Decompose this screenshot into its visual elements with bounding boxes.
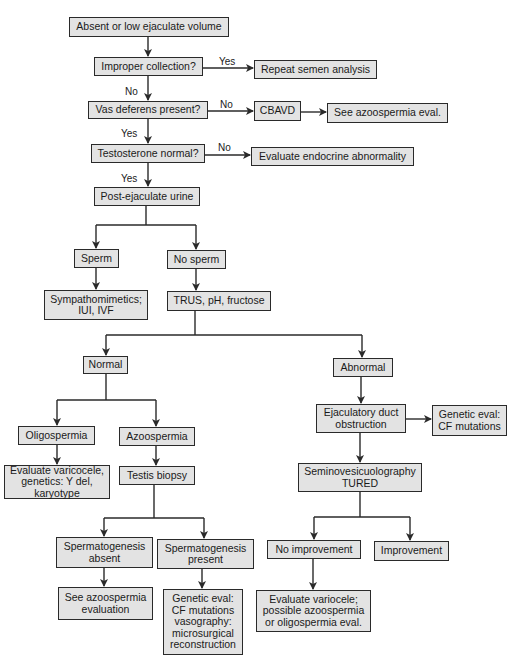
node-genetic-eval-vasography: Genetic eval: CF mutations vasography: m… <box>163 589 243 655</box>
edge-label-improper-yes: Yes <box>219 57 235 67</box>
node-oligospermia: Oligospermia <box>18 426 95 445</box>
node-improvement: Improvement <box>374 541 449 561</box>
node-sperm: Sperm <box>74 249 119 268</box>
node-repeat-semen-analysis: Repeat semen analysis <box>254 60 377 79</box>
node-spermatogenesis-present: Spermatogenesis present <box>157 539 254 569</box>
node-testosterone-normal: Testosterone normal? <box>91 144 205 163</box>
node-evaluate-varicocele: Evaluate varicocele, genetics: Y del, ka… <box>4 465 110 499</box>
node-cbavd: CBAVD <box>254 101 301 121</box>
edge-label-testosterone-yes: Yes <box>121 174 137 184</box>
node-vas-deferens: Vas deferens present? <box>88 101 208 119</box>
edge-label-vas-yes: Yes <box>121 129 137 139</box>
node-ejaculatory-duct-obstruction: Ejaculatory duct obstruction <box>316 404 406 433</box>
node-sympathomimetics: Sympathomimetics; IUI, IVF <box>44 290 148 320</box>
node-seminovesiculography: Seminovesicuolography TURED <box>298 463 422 492</box>
node-evaluate-endocrine: Evaluate endocrine abnormality <box>251 147 414 166</box>
node-absent-low-volume: Absent or low ejaculate volume <box>69 17 229 37</box>
node-trus: TRUS, pH, fructose <box>167 291 271 311</box>
node-spermatogenesis-absent: Spermatogenesis absent <box>56 537 153 568</box>
node-post-ejaculate-urine: Post-ejaculate urine <box>94 187 200 206</box>
edge-label-testosterone-no: No <box>218 143 231 153</box>
node-genetic-eval-cf: Genetic eval: CF mutations <box>432 405 507 436</box>
node-normal: Normal <box>83 356 128 374</box>
node-no-improvement: No improvement <box>267 540 361 559</box>
node-abnormal: Abnormal <box>333 358 393 377</box>
node-no-sperm: No sperm <box>167 250 226 269</box>
edge-label-vas-no: No <box>220 100 233 110</box>
node-testis-biopsy: Testis biopsy <box>119 466 195 485</box>
node-see-azoospermia-eval: See azoospermia eval. <box>327 103 448 123</box>
node-evaluate-variocele: Evaluate variocele; possible azoospermia… <box>256 590 371 632</box>
node-azoospermia: Azoospermia <box>119 427 195 446</box>
node-see-azoospermia-evaluation: See azoospermia evaluation <box>58 587 153 620</box>
edge-label-improper-no: No <box>125 87 138 97</box>
node-improper-collection: Improper collection? <box>94 57 203 76</box>
